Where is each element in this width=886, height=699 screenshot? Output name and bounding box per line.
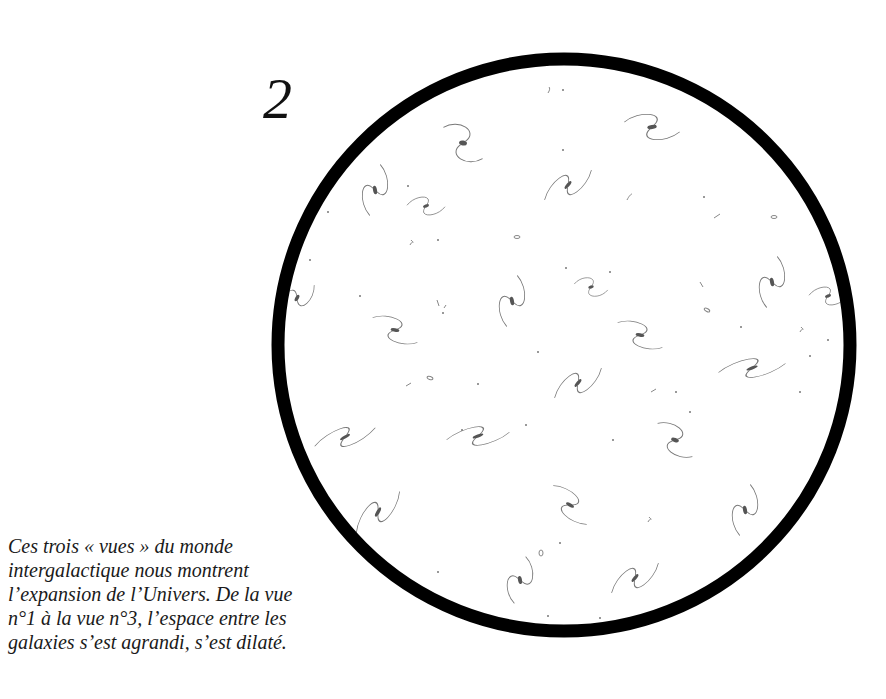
caption-line: n°1 à la vue n°3, l’espace entre les <box>8 606 308 630</box>
caption-line: galaxies s’est agrandi, s’est dilaté. <box>8 630 308 654</box>
caption-line: Ces trois « vues » du monde <box>8 534 308 558</box>
figure-caption: Ces trois « vues » du monde intergalacti… <box>8 534 308 654</box>
galaxy-field <box>277 79 849 620</box>
caption-line: intergalactique nous montrent <box>8 558 308 582</box>
universe-boundary-circle <box>278 59 850 631</box>
caption-line: l’expansion de l’Univers. De la vue <box>8 582 308 606</box>
